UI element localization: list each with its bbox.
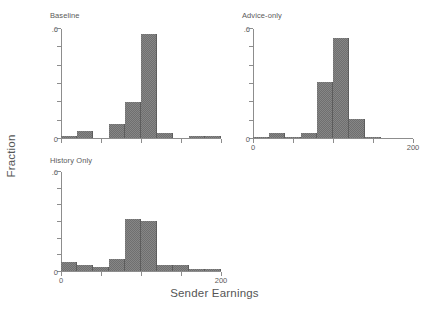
histogram-bar (93, 267, 109, 271)
y-axis-tick (249, 101, 253, 102)
y-axis-title: Fraction (2, 108, 20, 204)
y-axis-tick (57, 101, 61, 102)
y-axis-tick (57, 120, 61, 121)
x-axis-tick (141, 272, 142, 276)
panel-baseline: Baseline 0.6 (50, 11, 225, 146)
histogram-bar (125, 219, 141, 272)
x-axis-tick (181, 139, 182, 143)
y-axis-tick (249, 65, 253, 66)
plot-area-history-only: 0.60200 (61, 172, 221, 272)
y-axis-tick (57, 83, 61, 84)
x-axis-tick-label: 0 (251, 144, 255, 152)
x-axis-title: Sender Earnings (0, 287, 429, 299)
y-axis-tick-label: .6 (52, 25, 58, 33)
histogram-bar (77, 131, 93, 138)
histogram-bar (125, 102, 141, 138)
y-axis-tick (249, 46, 253, 47)
histogram-bar (109, 259, 125, 271)
panel-title-advice-only: Advice-only (242, 11, 282, 20)
histogram-bar (61, 136, 77, 138)
x-axis-tick (221, 139, 222, 143)
y-axis-tick (57, 238, 61, 239)
bars-baseline (61, 29, 221, 138)
y-axis-tick-label: .6 (244, 25, 250, 33)
x-axis-tick-label: 200 (215, 277, 228, 285)
histogram-bar (173, 265, 189, 271)
y-axis-tick (249, 83, 253, 84)
histogram-bar (189, 136, 205, 138)
x-axis-tick (61, 139, 62, 143)
histogram-bar (349, 119, 365, 138)
histogram-bar (157, 133, 173, 138)
histogram-bar (205, 136, 221, 138)
histogram-bar (141, 221, 157, 271)
histogram-bar (253, 137, 269, 139)
x-axis-tick (181, 272, 182, 276)
histogram-bar (333, 38, 349, 138)
histogram-bar (109, 124, 125, 138)
x-axis-tick (101, 139, 102, 143)
histogram-bar (189, 269, 205, 271)
y-axis-tick (57, 221, 61, 222)
panel-title-baseline: Baseline (50, 11, 80, 20)
histogram-bar (365, 137, 381, 139)
x-axis-tick (101, 272, 102, 276)
y-axis-tick (57, 46, 61, 47)
panel-title-history-only: History Only (50, 156, 92, 165)
histogram-bar (61, 262, 77, 271)
histogram-bar (285, 137, 301, 139)
histogram-bar (301, 133, 317, 138)
y-axis-title-text: Fraction (5, 134, 17, 177)
plot-area-baseline: 0.6 (61, 29, 221, 139)
x-axis-tick (333, 139, 334, 143)
bars-advice-only (253, 29, 413, 138)
histogram-bar (205, 269, 221, 271)
y-axis-tick (249, 120, 253, 121)
panel-history-only: History Only 0.60200 (50, 156, 225, 281)
x-axis-tick (293, 139, 294, 143)
histogram-bar (141, 34, 157, 138)
y-axis-tick (57, 65, 61, 66)
histogram-bar (77, 265, 93, 271)
x-axis-tick-label: 0 (59, 277, 63, 285)
y-axis-tick (57, 254, 61, 255)
x-axis-tick (373, 139, 374, 143)
histogram-bar (157, 265, 173, 271)
bars-history-only (61, 172, 221, 271)
y-axis-tick-label: 0 (246, 135, 250, 143)
x-axis-tick-label: 200 (407, 144, 420, 152)
y-axis-tick-label: 0 (54, 268, 58, 276)
y-axis-tick-label: 0 (54, 135, 58, 143)
panel-advice-only: Advice-only 0.60200 (242, 11, 422, 146)
y-axis-tick-label: .6 (52, 168, 58, 176)
y-axis-tick (57, 188, 61, 189)
plot-area-advice-only: 0.60200 (253, 29, 413, 139)
x-axis-tick (141, 139, 142, 143)
histogram-bar (269, 133, 285, 138)
histogram-figure: Fraction Sender Earnings Baseline 0.6 Ad… (0, 0, 429, 312)
y-axis-tick (57, 204, 61, 205)
histogram-bar (317, 82, 333, 138)
